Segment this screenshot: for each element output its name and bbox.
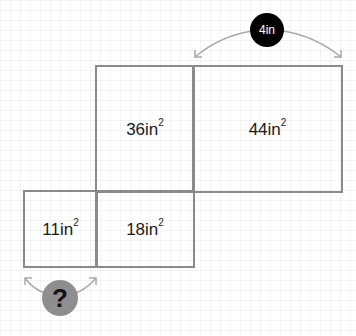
- dimension-arc-left: [195, 31, 252, 57]
- dimension-badge: 4in: [250, 13, 284, 47]
- dimension-label: 4in: [259, 23, 275, 37]
- face-bottom-left: 11in2: [23, 190, 98, 268]
- question-mark-icon: ?: [52, 283, 68, 314]
- area-label: 44in2: [249, 119, 287, 140]
- unknown-arc-right: [76, 278, 96, 293]
- area-label: 18in2: [126, 219, 164, 240]
- face-top-right: 44in2: [192, 65, 343, 193]
- unknown-arc-left: [25, 278, 44, 293]
- face-bottom-middle: 18in2: [95, 190, 195, 268]
- dimension-arc-right: [283, 31, 341, 57]
- unknown-badge: ?: [42, 280, 78, 316]
- area-label: 11in2: [42, 219, 78, 240]
- area-label: 36in2: [126, 119, 164, 140]
- face-top-left: 36in2: [95, 65, 195, 193]
